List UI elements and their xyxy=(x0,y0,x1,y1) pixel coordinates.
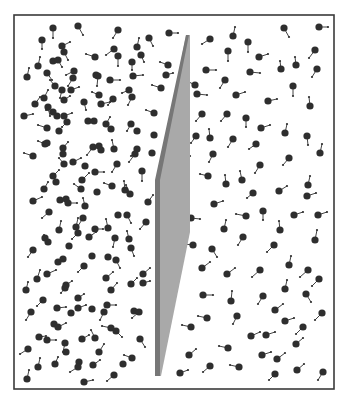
particle-body xyxy=(125,86,132,93)
particle-body xyxy=(271,370,278,377)
velocity-tip xyxy=(302,211,304,213)
velocity-tip xyxy=(41,48,43,50)
particle-body xyxy=(31,100,38,107)
particle-body xyxy=(209,150,216,157)
particle-body xyxy=(78,335,85,342)
velocity-tip xyxy=(103,343,105,345)
particle-body xyxy=(43,139,50,146)
particle-body xyxy=(108,182,115,189)
particle-body xyxy=(144,198,151,205)
particle-body xyxy=(257,124,264,131)
particle xyxy=(119,360,126,367)
velocity-tip xyxy=(199,173,201,175)
velocity-tip xyxy=(274,331,276,333)
velocity-tip xyxy=(85,304,87,306)
particle-body xyxy=(319,368,326,375)
particle-body xyxy=(314,211,321,218)
velocity-tip xyxy=(39,56,41,58)
particle-body xyxy=(39,296,46,303)
particle-body xyxy=(52,178,59,185)
velocity-tip xyxy=(299,276,301,278)
velocity-tip xyxy=(109,101,111,103)
velocity-tip xyxy=(111,139,113,141)
velocity-tip xyxy=(282,164,284,166)
velocity-tip xyxy=(177,32,179,34)
particle-body xyxy=(53,112,60,119)
velocity-tip xyxy=(102,228,104,230)
particle-body xyxy=(70,67,77,74)
particle-body xyxy=(148,149,155,156)
particle-body xyxy=(273,355,280,362)
velocity-tip xyxy=(78,86,80,88)
velocity-tip xyxy=(292,95,294,97)
particle-body xyxy=(281,317,288,324)
velocity-tip xyxy=(237,244,239,246)
velocity-tip xyxy=(316,229,318,231)
particle-body xyxy=(90,117,97,124)
velocity-tip xyxy=(25,319,27,321)
velocity-tip xyxy=(269,124,271,126)
particle-body xyxy=(38,36,45,43)
velocity-tip xyxy=(36,305,38,307)
velocity-tip xyxy=(82,197,84,199)
velocity-tip xyxy=(308,57,310,59)
velocity-tip xyxy=(143,61,145,63)
velocity-tip xyxy=(73,183,75,185)
velocity-tip xyxy=(190,142,192,144)
particle-body xyxy=(256,161,263,168)
particle-body xyxy=(208,245,215,252)
velocity-tip xyxy=(41,196,43,198)
velocity-tip xyxy=(187,369,189,371)
velocity-tip xyxy=(83,293,85,295)
velocity-tip xyxy=(141,180,143,182)
particle-body xyxy=(60,160,67,167)
particle-body xyxy=(242,114,249,121)
velocity-tip xyxy=(76,202,78,204)
particle-body xyxy=(24,345,31,352)
particle-body xyxy=(40,185,47,192)
particle-body xyxy=(104,253,111,260)
particle xyxy=(97,146,104,153)
particle-body xyxy=(78,176,85,183)
particle xyxy=(93,188,100,195)
particle-body xyxy=(74,363,81,370)
particle-body xyxy=(125,235,132,242)
particle-body xyxy=(127,280,134,287)
particle-body xyxy=(27,308,34,315)
velocity-tip xyxy=(195,348,197,350)
velocity-tip xyxy=(37,124,39,126)
particle-body xyxy=(222,180,229,187)
particle-body xyxy=(252,140,259,147)
velocity-tip xyxy=(267,53,269,55)
particle-body xyxy=(255,53,262,60)
particle-body xyxy=(281,285,288,292)
velocity-tip xyxy=(126,230,128,232)
particle xyxy=(150,131,157,138)
particle-body xyxy=(114,26,121,33)
velocity-tip xyxy=(85,53,87,55)
velocity-tip xyxy=(257,303,259,305)
velocity-tip xyxy=(65,322,67,324)
particle-body xyxy=(292,61,299,68)
velocity-tip xyxy=(65,74,67,76)
velocity-tip xyxy=(119,267,121,269)
particle-body xyxy=(112,256,119,263)
velocity-tip xyxy=(47,181,49,183)
particle-body xyxy=(127,120,134,127)
particle-body xyxy=(315,275,322,282)
velocity-tip xyxy=(288,36,290,38)
particle-body xyxy=(221,76,228,83)
particle-body xyxy=(235,363,242,370)
velocity-tip xyxy=(326,211,328,213)
velocity-tip xyxy=(57,356,59,358)
velocity-tip xyxy=(212,294,214,296)
particle-body xyxy=(74,304,81,311)
particle-body xyxy=(244,38,251,45)
velocity-tip xyxy=(227,146,229,148)
particle-body xyxy=(45,208,52,215)
velocity-tip xyxy=(224,174,226,176)
particle-body xyxy=(107,286,114,293)
velocity-tip xyxy=(295,333,297,335)
velocity-tip xyxy=(225,219,227,221)
particle xyxy=(104,253,111,260)
